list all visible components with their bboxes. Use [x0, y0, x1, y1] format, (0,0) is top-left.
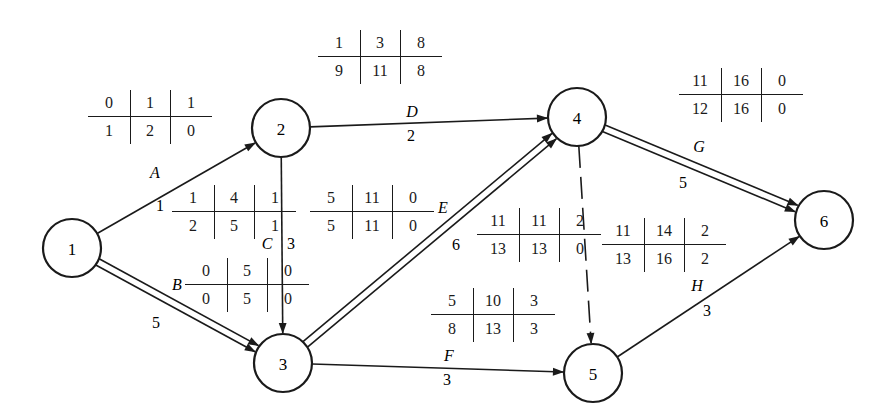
- table-cell-bottom-0: 8: [432, 319, 472, 339]
- table-cell-bottom-2: 0: [560, 239, 600, 259]
- table-cell-bottom-1: 5: [227, 289, 267, 309]
- activity-duration-label: 6: [452, 236, 460, 253]
- table-divider: [185, 284, 309, 285]
- table-divider: [477, 234, 601, 235]
- table-cell-bottom-0: 9: [319, 61, 359, 81]
- table-cell-top-0: 5: [432, 291, 472, 311]
- table-cell-bottom-1: 2: [130, 121, 170, 141]
- table-cell-top-1: 11: [352, 188, 392, 208]
- table-cell-bottom-0: 5: [311, 216, 351, 236]
- time-table-e: 1111213130: [477, 206, 601, 264]
- activity-name-label: E: [437, 199, 448, 216]
- table-cell-top-2: 0: [393, 188, 433, 208]
- table-cell-bottom-2: 0: [268, 289, 308, 309]
- table-cell-top-2: 2: [685, 221, 725, 241]
- table-cell-bottom-0: 2: [173, 216, 213, 236]
- table-cell-top-1: 3: [360, 33, 400, 53]
- table-cell-top-0: 5: [311, 188, 351, 208]
- time-table-a: 011120: [88, 88, 212, 146]
- table-cell-top-0: 11: [680, 71, 720, 91]
- time-table-a-inner: 141251: [172, 183, 296, 241]
- table-cell-top-2: 0: [762, 71, 802, 91]
- network-diagram: 123456 A1B5C3D2E6F3G5H3: [0, 0, 890, 420]
- time-table-d: 1389118: [318, 28, 442, 86]
- table-cell-top-1: 14: [644, 221, 684, 241]
- table-cell-top-2: 1: [171, 93, 211, 113]
- table-cell-bottom-2: 2: [685, 249, 725, 269]
- activity-duration-label: 3: [443, 371, 451, 388]
- table-cell-top-1: 1: [130, 93, 170, 113]
- node-label: 6: [820, 212, 829, 231]
- table-cell-top-2: 0: [268, 261, 308, 281]
- table-cell-bottom-0: 0: [186, 289, 226, 309]
- table-divider: [88, 116, 212, 117]
- table-cell-top-0: 1: [173, 188, 213, 208]
- table-cell-bottom-0: 13: [603, 249, 643, 269]
- table-cell-top-2: 2: [560, 211, 600, 231]
- table-divider: [431, 314, 555, 315]
- table-cell-bottom-2: 1: [255, 216, 295, 236]
- table-cell-bottom-2: 8: [401, 61, 441, 81]
- activity-arrow-f: [312, 364, 563, 372]
- table-cell-bottom-1: 5: [214, 216, 254, 236]
- event-node-3: 3: [254, 334, 312, 392]
- node-label: 4: [573, 109, 582, 128]
- table-cell-bottom-1: 13: [519, 239, 559, 259]
- table-cell-bottom-0: 13: [478, 239, 518, 259]
- table-cell-bottom-2: 0: [762, 99, 802, 119]
- node-label: 3: [279, 355, 288, 374]
- activity-name-label: G: [693, 138, 705, 155]
- activity-name-label: B: [172, 276, 182, 293]
- table-divider: [679, 94, 803, 95]
- event-node-6: 6: [795, 191, 853, 249]
- table-cell-top-1: 5: [227, 261, 267, 281]
- activity-name-label: A: [149, 164, 160, 181]
- event-node-1: 1: [43, 219, 101, 277]
- node-label: 1: [68, 240, 77, 259]
- table-divider: [310, 211, 434, 212]
- activity-name-label: F: [443, 347, 454, 364]
- table-cell-top-2: 1: [255, 188, 295, 208]
- time-table-b: 050050: [185, 256, 309, 314]
- table-cell-bottom-0: 1: [89, 121, 129, 141]
- table-cell-top-2: 3: [514, 291, 554, 311]
- time-table-c: 51105110: [310, 183, 434, 241]
- table-cell-top-1: 10: [473, 291, 513, 311]
- table-cell-top-0: 11: [603, 221, 643, 241]
- activity-duration-label: 5: [679, 174, 687, 191]
- table-cell-bottom-0: 12: [680, 99, 720, 119]
- activity-duration-label: 1: [156, 197, 164, 214]
- node-label: 5: [589, 365, 598, 384]
- table-cell-bottom-1: 13: [473, 319, 513, 339]
- table-divider: [172, 211, 296, 212]
- table-divider: [318, 56, 442, 57]
- event-node-2: 2: [252, 99, 310, 157]
- time-table-f: 51038133: [431, 286, 555, 344]
- time-table-g: 1116012160: [679, 66, 803, 124]
- table-cell-bottom-2: 0: [393, 216, 433, 236]
- table-cell-top-1: 16: [721, 71, 761, 91]
- table-cell-top-0: 1: [319, 33, 359, 53]
- event-node-5: 5: [564, 344, 622, 402]
- table-cell-bottom-2: 0: [171, 121, 211, 141]
- table-divider: [602, 244, 726, 245]
- time-table-dummy: 1114213162: [602, 216, 726, 274]
- table-cell-bottom-2: 3: [514, 319, 554, 339]
- table-cell-top-0: 0: [186, 261, 226, 281]
- table-cell-top-0: 11: [478, 211, 518, 231]
- activity-arrow-d: [310, 118, 547, 127]
- table-cell-top-1: 4: [214, 188, 254, 208]
- table-cell-top-2: 8: [401, 33, 441, 53]
- activity-duration-label: 5: [152, 314, 160, 331]
- event-node-4: 4: [548, 88, 606, 146]
- activity-name-label: H: [690, 277, 704, 294]
- activity-duration-label: 2: [407, 127, 415, 144]
- activity-duration-label: 3: [703, 302, 711, 319]
- table-cell-bottom-1: 11: [352, 216, 392, 236]
- table-cell-top-0: 0: [89, 93, 129, 113]
- table-cell-top-1: 11: [519, 211, 559, 231]
- table-cell-bottom-1: 16: [721, 99, 761, 119]
- table-cell-bottom-1: 11: [360, 61, 400, 81]
- activity-name-label: D: [405, 103, 418, 120]
- node-label: 2: [277, 120, 286, 139]
